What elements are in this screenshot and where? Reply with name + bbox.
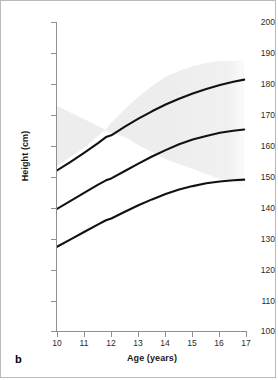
x-tick-label: 16 — [209, 339, 229, 348]
y-tick-label: 200 — [229, 18, 275, 26]
x-tick-mark — [84, 332, 85, 337]
x-tick-label: 12 — [101, 339, 121, 348]
lower-curve — [57, 180, 244, 247]
y-axis-title: Height (cm) — [20, 106, 30, 206]
y-tick-label: 160 — [229, 142, 275, 150]
y-tick-mark — [51, 115, 56, 116]
x-tick-label: 10 — [47, 339, 67, 348]
y-tick-label: 110 — [229, 297, 275, 305]
x-tick-mark — [165, 332, 166, 337]
x-axis-title: Age (years) — [57, 353, 247, 363]
y-tick-label: 170 — [229, 111, 275, 119]
y-tick-mark — [51, 177, 56, 178]
x-tick-label: 17 — [236, 339, 256, 348]
x-tick-label: 14 — [155, 339, 175, 348]
y-tick-label: 180 — [229, 80, 275, 88]
x-tick-label: 15 — [182, 339, 202, 348]
y-tick-label: 130 — [229, 235, 275, 243]
x-tick-label: 11 — [74, 339, 94, 348]
x-tick-mark — [192, 332, 193, 337]
plot-area — [57, 23, 247, 331]
x-tick-mark — [57, 332, 58, 337]
x-tick-label: 13 — [128, 339, 148, 348]
y-tick-label: 190 — [229, 49, 275, 57]
x-tick-mark — [219, 332, 220, 337]
y-tick-mark — [51, 301, 56, 302]
y-tick-label: 120 — [229, 266, 275, 274]
y-axis-line — [56, 22, 57, 332]
y-tick-mark — [51, 239, 56, 240]
y-tick-mark — [51, 270, 56, 271]
x-tick-mark — [246, 332, 247, 337]
y-tick-mark — [51, 22, 56, 23]
y-tick-label: 140 — [229, 204, 275, 212]
y-tick-label: 150 — [229, 173, 275, 181]
x-tick-mark — [138, 332, 139, 337]
y-tick-label: 100 — [229, 327, 275, 335]
chart-canvas — [57, 23, 247, 331]
shaded-reference-band — [57, 60, 244, 186]
x-tick-mark — [111, 332, 112, 337]
y-tick-mark — [51, 146, 56, 147]
y-tick-mark — [51, 331, 56, 332]
y-tick-mark — [51, 208, 56, 209]
panel-label: b — [15, 353, 22, 365]
figure-panel: 200 190 180 170 160 150 140 130 120 110 … — [0, 0, 276, 378]
y-tick-mark — [51, 84, 56, 85]
y-tick-mark — [51, 53, 56, 54]
